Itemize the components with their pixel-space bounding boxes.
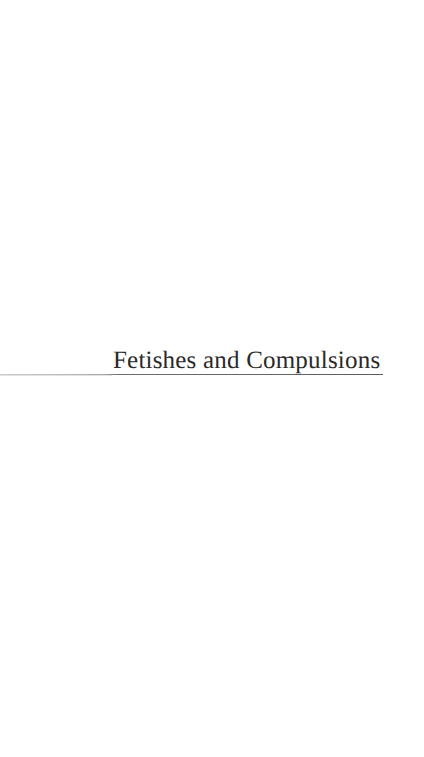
page-title: Fetishes and Compulsions (113, 348, 403, 374)
page-canvas: Fetishes and Compulsions (0, 0, 424, 757)
title-horizontal-rule-ghost (0, 375, 112, 376)
part-title-block: Fetishes and Compulsions (0, 348, 424, 382)
